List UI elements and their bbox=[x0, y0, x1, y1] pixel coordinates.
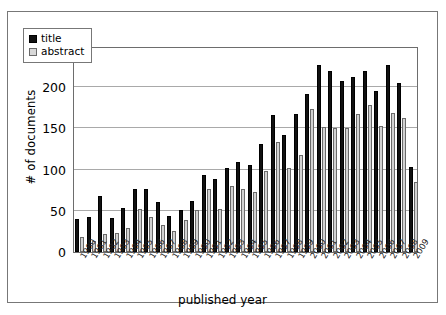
bar-title-2002 bbox=[328, 71, 332, 252]
bar-group bbox=[178, 48, 190, 252]
bar-group bbox=[385, 48, 397, 252]
bar-group bbox=[408, 48, 420, 252]
bar-group bbox=[350, 48, 362, 252]
bar-title-1996 bbox=[259, 144, 263, 252]
bar-abstract-1999 bbox=[299, 155, 303, 252]
bar-group bbox=[189, 48, 201, 252]
bars-layer bbox=[74, 48, 417, 252]
bar-title-2006 bbox=[374, 91, 378, 253]
bar-abstract-2003 bbox=[345, 128, 349, 252]
bar-abstract-2004 bbox=[356, 114, 360, 252]
bar-group bbox=[304, 48, 316, 252]
y-axis-tick-labels: 050100150200250 bbox=[30, 36, 66, 260]
legend-swatch-title bbox=[29, 35, 37, 43]
y-tick-label: 150 bbox=[30, 123, 66, 136]
bar-title-2008 bbox=[397, 83, 401, 252]
bar-title-1999 bbox=[294, 114, 298, 252]
bar-abstract-2001 bbox=[322, 127, 326, 252]
bar-group bbox=[86, 48, 98, 252]
bar-group bbox=[235, 48, 247, 252]
bar-group bbox=[327, 48, 339, 252]
bar-title-2003 bbox=[340, 81, 344, 252]
bar-group bbox=[339, 48, 351, 252]
bar-title-2004 bbox=[351, 77, 355, 252]
bar-group bbox=[74, 48, 86, 252]
bar-group bbox=[166, 48, 178, 252]
bar-abstract-2007 bbox=[391, 113, 395, 252]
bar-group bbox=[270, 48, 282, 252]
chart-legend: titleabstract bbox=[23, 28, 92, 63]
y-tick-label: 200 bbox=[30, 82, 66, 95]
bar-abstract-1997 bbox=[276, 142, 280, 252]
bar-group bbox=[97, 48, 109, 252]
y-tick-label: 50 bbox=[30, 206, 66, 219]
legend-label: title bbox=[41, 32, 62, 45]
bar-abstract-2006 bbox=[379, 126, 383, 252]
bar-group bbox=[201, 48, 213, 252]
bar-group bbox=[362, 48, 374, 252]
bar-group bbox=[109, 48, 121, 252]
legend-label: abstract bbox=[41, 45, 84, 58]
bar-group bbox=[281, 48, 293, 252]
bar-title-2007 bbox=[386, 65, 390, 252]
bar-group bbox=[143, 48, 155, 252]
bar-group bbox=[258, 48, 270, 252]
bar-abstract-2005 bbox=[368, 105, 372, 252]
y-tick-label: 100 bbox=[30, 165, 66, 178]
bar-group bbox=[132, 48, 144, 252]
figure-frame: # of documents 050100150200250 titleabst… bbox=[7, 11, 438, 303]
bar-group bbox=[396, 48, 408, 252]
bar-group bbox=[224, 48, 236, 252]
y-tick-label: 0 bbox=[30, 247, 66, 260]
bar-title-2000 bbox=[305, 94, 309, 252]
bar-title-1998 bbox=[282, 135, 286, 252]
bar-abstract-2008 bbox=[402, 118, 406, 252]
bar-group bbox=[120, 48, 132, 252]
bar-group bbox=[373, 48, 385, 252]
bar-group bbox=[212, 48, 224, 252]
x-axis-title: published year bbox=[8, 293, 437, 307]
bar-group bbox=[155, 48, 167, 252]
bar-abstract-2002 bbox=[333, 128, 337, 252]
bar-group bbox=[293, 48, 305, 252]
bar-title-1980 bbox=[75, 219, 79, 252]
x-axis-tick-labels: 1980198119821983198419851986198719881989… bbox=[73, 255, 418, 295]
legend-swatch-abstract bbox=[29, 48, 37, 56]
bar-title-2001 bbox=[317, 65, 321, 252]
bar-title-1997 bbox=[271, 115, 275, 252]
legend-item-abstract: abstract bbox=[29, 45, 84, 58]
legend-item-title: title bbox=[29, 32, 84, 45]
bar-abstract-2000 bbox=[310, 109, 314, 252]
bar-group bbox=[247, 48, 259, 252]
plot-area bbox=[73, 47, 418, 253]
bar-title-2005 bbox=[363, 71, 367, 252]
bar-group bbox=[316, 48, 328, 252]
